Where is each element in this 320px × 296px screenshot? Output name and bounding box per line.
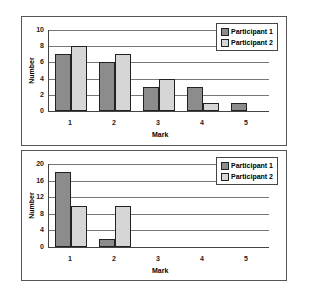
legend-swatch-icon xyxy=(221,173,229,181)
bar-participant-2-mark-2 xyxy=(115,206,131,248)
x-axis-label: Mark xyxy=(152,131,168,138)
legend: Participant 1Participant 2 xyxy=(216,157,278,185)
legend-item: Participant 1 xyxy=(221,160,273,171)
x-tick-label: 1 xyxy=(68,119,72,126)
x-tick-label: 5 xyxy=(244,255,248,262)
legend: Participant 1Participant 2 xyxy=(216,23,278,51)
y-tick-label: 20 xyxy=(36,160,44,167)
bar-participant-1-mark-1 xyxy=(55,172,71,247)
bar-participant-1-mark-3 xyxy=(143,87,159,111)
legend-item: Participant 2 xyxy=(221,37,273,48)
y-tick-label: 4 xyxy=(40,75,44,82)
x-tick-label: 2 xyxy=(112,255,116,262)
bar-participant-2-mark-4 xyxy=(203,103,219,111)
y-axis-label: Number xyxy=(28,57,35,83)
legend-label: Participant 2 xyxy=(231,173,273,180)
bar-participant-2-mark-3 xyxy=(159,79,175,111)
chart-bottom: 04812162012345MarkNumberParticipant 1Par… xyxy=(21,150,287,281)
gridline xyxy=(49,197,269,198)
x-tick-label: 1 xyxy=(68,255,72,262)
legend-label: Participant 2 xyxy=(231,39,273,46)
x-tick-label: 4 xyxy=(200,119,204,126)
bar-participant-2-mark-1 xyxy=(71,206,87,248)
legend-item: Participant 1 xyxy=(221,26,273,37)
y-axis-label: Number xyxy=(28,192,35,218)
x-axis-label: Mark xyxy=(152,267,168,274)
y-tick-label: 6 xyxy=(40,58,44,65)
bar-participant-1-mark-4 xyxy=(187,87,203,111)
y-tick-label: 12 xyxy=(36,193,44,200)
y-tick-label: 4 xyxy=(40,226,44,233)
bar-participant-1-mark-1 xyxy=(55,54,71,111)
y-tick-label: 8 xyxy=(40,210,44,217)
legend-label: Participant 1 xyxy=(231,162,273,169)
y-tick-label: 16 xyxy=(36,177,44,184)
legend-label: Participant 1 xyxy=(231,28,273,35)
legend-item: Participant 2 xyxy=(221,171,273,182)
legend-swatch-icon xyxy=(221,28,229,36)
bar-participant-2-mark-2 xyxy=(115,54,131,111)
y-tick-label: 10 xyxy=(36,26,44,33)
legend-swatch-icon xyxy=(221,39,229,47)
legend-swatch-icon xyxy=(221,162,229,170)
bar-participant-2-mark-1 xyxy=(71,46,87,111)
chart-top: 024681012345MarkNumberParticipant 1Parti… xyxy=(21,16,287,146)
y-tick-label: 8 xyxy=(40,42,44,49)
y-tick-label: 0 xyxy=(40,107,44,114)
x-tick-label: 5 xyxy=(244,119,248,126)
y-tick-label: 0 xyxy=(40,243,44,250)
bar-participant-1-mark-2 xyxy=(99,239,115,247)
x-tick-label: 2 xyxy=(112,119,116,126)
x-tick-label: 3 xyxy=(156,255,160,262)
bar-participant-1-mark-2 xyxy=(99,62,115,111)
x-tick-label: 3 xyxy=(156,119,160,126)
x-tick-label: 4 xyxy=(200,255,204,262)
y-tick-label: 2 xyxy=(40,91,44,98)
bar-participant-1-mark-5 xyxy=(231,103,247,111)
